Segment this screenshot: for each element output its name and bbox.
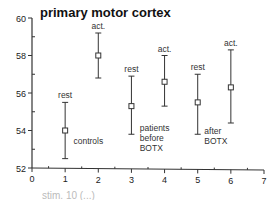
data-point-marker	[129, 104, 134, 109]
y-tick-label: 54	[16, 126, 26, 136]
x-tick-label: 7	[261, 176, 266, 186]
data-point-marker	[96, 53, 101, 58]
x-tick-label: 1	[63, 174, 68, 184]
chart-container: primary motor cortex 525456586001234567r…	[0, 0, 280, 200]
annotation: afterBOTX	[204, 126, 227, 146]
y-tick-label: 56	[16, 89, 26, 99]
y-tick-label: 60	[16, 14, 26, 24]
plot-area: 525456586001234567restact.restact.restac…	[0, 0, 280, 200]
x-tick-label: 5	[195, 175, 200, 185]
chart-title: primary motor cortex	[40, 5, 171, 20]
point-label: rest	[58, 90, 73, 100]
x-tick-label: 0	[29, 174, 34, 184]
y-tick-label: 52	[16, 164, 26, 174]
x-tick-label: 4	[162, 175, 167, 185]
data-point-marker	[162, 79, 167, 84]
x-tick-label: 2	[96, 175, 101, 185]
data-point-marker	[63, 128, 68, 133]
point-label: act.	[158, 44, 172, 54]
y-tick-label: 58	[16, 51, 26, 61]
data-point-marker	[228, 85, 233, 90]
point-label: rest	[191, 62, 206, 72]
data-point-marker	[195, 100, 200, 105]
footer-label: stim. 10 (...)	[42, 190, 95, 200]
annotation: controls	[73, 136, 103, 146]
point-label: act.	[91, 21, 105, 31]
annotation: patientsbeforeBOTX	[140, 123, 170, 153]
point-label: rest	[124, 64, 139, 74]
point-label: act.	[224, 38, 238, 48]
x-tick-label: 3	[129, 175, 134, 185]
x-tick-label: 6	[228, 176, 233, 186]
